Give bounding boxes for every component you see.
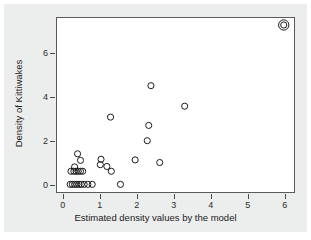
x-tick-mark — [248, 194, 249, 199]
data-point — [74, 151, 80, 157]
y-tick-label: 0 — [34, 180, 48, 190]
scatter-plot-figure: 0123456 0246 Estimated density values by… — [0, 0, 311, 240]
data-point — [182, 103, 188, 109]
data-point — [132, 157, 138, 163]
data-point — [117, 181, 123, 187]
data-point — [144, 138, 150, 144]
data-point — [77, 157, 83, 163]
x-tick-mark — [63, 194, 64, 199]
y-tick-label: 2 — [34, 136, 48, 146]
data-point — [281, 22, 287, 28]
data-point — [148, 83, 154, 89]
data-points-layer — [57, 18, 294, 192]
data-point — [89, 181, 95, 187]
data-point — [104, 163, 110, 169]
y-tick-label: 4 — [34, 92, 48, 102]
highlighted-data-point — [279, 20, 289, 30]
data-point — [157, 159, 163, 165]
x-tick-mark — [100, 194, 101, 199]
y-axis-label: Density of Kittiwakes — [13, 16, 24, 192]
data-point — [146, 122, 152, 128]
y-tick-mark — [50, 185, 55, 186]
x-tick-mark — [174, 194, 175, 199]
x-tick-mark — [211, 194, 212, 199]
x-tick-label: 6 — [273, 200, 297, 210]
x-tick-mark — [137, 194, 138, 199]
x-tick-label: 1 — [88, 200, 112, 210]
x-tick-label: 2 — [125, 200, 149, 210]
x-tick-label: 5 — [236, 200, 260, 210]
x-tick-label: 3 — [162, 200, 186, 210]
x-tick-label: 4 — [199, 200, 223, 210]
y-tick-label: 6 — [34, 48, 48, 58]
x-tick-label: 0 — [51, 200, 75, 210]
y-tick-mark — [50, 141, 55, 142]
x-axis-label: Estimated density values by the model — [0, 212, 311, 223]
y-tick-mark — [50, 97, 55, 98]
data-point — [107, 114, 113, 120]
x-tick-mark — [285, 194, 286, 199]
plot-area — [56, 17, 295, 193]
y-tick-mark — [50, 53, 55, 54]
